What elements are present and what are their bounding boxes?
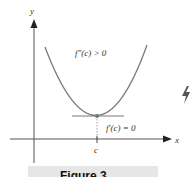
caption-text: Figure 3.	[60, 170, 110, 177]
second-derivative-label: f″(c) > 0	[75, 48, 107, 58]
x-axis-arrow-icon	[163, 136, 172, 143]
x-axis-label: x	[174, 135, 179, 145]
diagram-canvas: y x f″(c) > 0 f′(c) = 0 c	[0, 0, 191, 177]
minimum-point	[95, 114, 99, 118]
figure-caption: Figure 3.	[28, 166, 158, 177]
margin-mark-icon	[181, 86, 191, 104]
y-axis-arrow-icon	[31, 19, 38, 28]
y-axis-label: y	[29, 6, 34, 16]
first-derivative-label: f′(c) = 0	[106, 123, 136, 133]
c-label: c	[94, 145, 98, 155]
